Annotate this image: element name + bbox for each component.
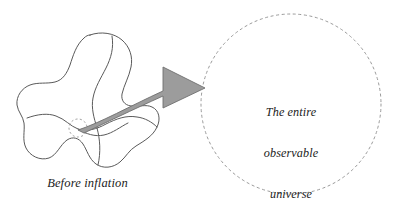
observable-universe-label-line-1: The entire bbox=[231, 106, 351, 120]
caption-before-inflation: Before inflation bbox=[0, 176, 175, 191]
observable-universe-label-line-3: universe bbox=[231, 188, 351, 202]
observable-universe-label-line-2: observable bbox=[231, 147, 351, 161]
inflation-diagram: Before inflation The entire observable u… bbox=[0, 0, 397, 207]
pre-inflation-space-blob bbox=[17, 33, 159, 167]
observable-universe-label: The entire observable universe bbox=[231, 79, 351, 207]
